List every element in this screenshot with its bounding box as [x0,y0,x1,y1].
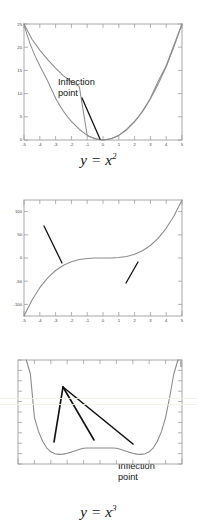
figure-quartic: Inflection points y = x4 - 10x2 + 50 [0,352,197,523]
svg-text:10: 10 [17,91,22,96]
svg-text:15: 15 [17,68,22,73]
equation-exponent: 2 [112,151,117,161]
svg-text:3: 3 [149,318,152,323]
svg-text:-50: -50 [16,279,23,284]
annotation-line-1: Inflection [58,77,95,88]
svg-text:-5: -5 [22,142,26,147]
x-axis-tick-labels: -5 -4 -3 -2 -1 0 1 2 3 4 5 [22,318,184,323]
svg-text:1: 1 [118,142,121,147]
svg-text:5: 5 [20,114,23,119]
svg-text:50: 50 [17,232,22,237]
svg-text:1: 1 [118,318,121,323]
cubic-plot-svg: -100 -50 0 50 100 -5 -4 -3 -2 -1 0 1 2 3… [0,176,197,326]
y-axis-tick-labels: 0 5 10 15 20 25 [17,22,22,143]
svg-text:20: 20 [17,45,22,50]
svg-text:-2: -2 [70,142,74,147]
svg-text:-4: -4 [38,318,42,323]
scan-band-upper [0,398,197,399]
scan-artifact-mark [180,361,182,367]
plot-area-cubic: -100 -50 0 50 100 -5 -4 -3 -2 -1 0 1 2 3… [0,176,197,326]
svg-text:5: 5 [181,318,184,323]
svg-text:-4: -4 [38,142,42,147]
svg-text:0: 0 [102,318,105,323]
scan-band-lower [0,404,197,405]
svg-text:-3: -3 [54,318,58,323]
svg-text:100: 100 [15,209,23,214]
annotation-line-2: point [58,88,95,99]
svg-text:2: 2 [133,142,136,147]
svg-text:25: 25 [17,22,22,27]
svg-text:-5: -5 [22,318,26,323]
svg-text:4: 4 [165,318,168,323]
svg-text:0: 0 [20,255,23,260]
svg-text:-1: -1 [85,142,89,147]
quartic-plot-svg [0,352,197,482]
equation-parabola: y = x2 [0,152,197,169]
svg-text:-1: -1 [85,318,89,323]
x-axis-tick-labels: -5 -4 -3 -2 -1 0 1 2 3 4 5 [22,142,184,147]
svg-text:5: 5 [181,142,184,147]
svg-text:-2: -2 [70,318,74,323]
figure-cubic: -100 -50 0 50 100 -5 -4 -3 -2 -1 0 1 2 3… [0,176,197,352]
svg-text:4: 4 [165,142,168,147]
equation-lhs: y = x [80,152,112,168]
plot-area-quartic [0,352,197,482]
plot-area-parabola: 0 5 10 15 20 25 -5 -4 -3 -2 -1 0 1 2 3 4… [0,0,197,150]
svg-text:0: 0 [102,142,105,147]
svg-text:3: 3 [149,142,152,147]
y-axis-tick-labels: -100 -50 0 50 100 [14,209,23,307]
parabola-plot-svg: 0 5 10 15 20 25 -5 -4 -3 -2 -1 0 1 2 3 4… [0,0,197,150]
figure-parabola: 0 5 10 15 20 25 -5 -4 -3 -2 -1 0 1 2 3 4… [0,0,197,178]
svg-text:2: 2 [133,318,136,323]
inflection-point-annotation: Inflection point [58,77,95,98]
svg-text:-3: -3 [54,142,58,147]
svg-text:-100: -100 [14,302,23,307]
